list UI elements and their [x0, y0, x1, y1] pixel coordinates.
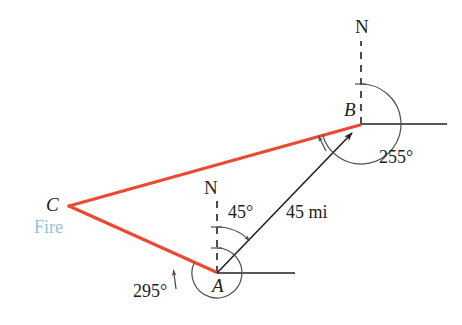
route-leg-ca	[69, 206, 216, 272]
vertex-label-a: A	[212, 276, 224, 295]
angle-label-295: 295°	[133, 282, 167, 300]
vertex-label-b: B	[344, 100, 356, 119]
fire-label: Fire	[34, 218, 63, 236]
angle-arc-45	[217, 227, 250, 241]
figure-canvas: B A C Fire N N 45° 295° 255° 45 mi	[0, 0, 462, 325]
angle-arrow-255	[319, 136, 327, 151]
angle-label-45: 45°	[228, 203, 253, 221]
distance-label-ab: 45 mi	[286, 203, 328, 221]
angle-label-255: 255°	[379, 148, 413, 166]
north-label-a: N	[204, 178, 218, 197]
vertex-label-c: C	[46, 195, 59, 214]
north-label-b: N	[355, 17, 369, 36]
angle-arrow-295	[174, 270, 177, 289]
